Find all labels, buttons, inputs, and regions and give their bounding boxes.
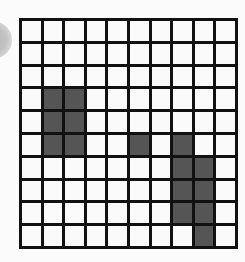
grid-cell-empty [44,226,63,246]
grid-cell-filled [173,158,192,178]
grid-cell-empty [173,226,192,246]
grid-cell-empty [65,203,84,223]
pixel-grid [19,18,238,249]
grid-cell-empty [152,203,171,223]
grid-cell-empty [65,226,84,246]
grid-cell-empty [216,112,235,132]
grid-cell-empty [108,112,127,132]
grid-cell-empty [65,158,84,178]
grid-cell-empty [22,181,41,201]
grid-cell-empty [216,21,235,41]
grid-cell-empty [152,135,171,155]
grid-cell-empty [216,89,235,109]
grid-cell-filled [195,226,214,246]
grid-cell-empty [130,226,149,246]
grid-cell-empty [65,67,84,87]
grid-cell-empty [216,181,235,201]
grid-cell-empty [173,21,192,41]
grid-cell-empty [152,158,171,178]
grid-cell-empty [44,181,63,201]
grid-cell-filled [44,112,63,132]
grid-cell-empty [87,44,106,64]
grid-cell-empty [22,89,41,109]
grid-cell-empty [130,158,149,178]
grid-cell-empty [173,44,192,64]
grid-cell-filled [65,89,84,109]
grid-cell-empty [87,135,106,155]
grid-cell-empty [108,135,127,155]
grid-cell-empty [216,158,235,178]
grid-cell-empty [22,112,41,132]
grid-cell-empty [108,203,127,223]
grid-cell-empty [130,44,149,64]
grid-cell-empty [22,44,41,64]
grid-cell-empty [108,21,127,41]
grid-cell-empty [22,203,41,223]
grid-cell-empty [87,158,106,178]
grid-cell-empty [173,67,192,87]
grid-cell-empty [130,89,149,109]
grid-cell-empty [87,21,106,41]
grid-cell-empty [173,112,192,132]
grid-cell-filled [195,158,214,178]
grid-cell-empty [152,89,171,109]
grid-cell-empty [44,21,63,41]
grid-cell-empty [130,112,149,132]
grid-cell-filled [173,181,192,201]
grid-cell-empty [22,226,41,246]
grid-cell-empty [195,89,214,109]
grid-cell-empty [195,112,214,132]
grid-cell-empty [22,67,41,87]
grid-cell-empty [44,203,63,223]
grid-cell-empty [44,67,63,87]
grid-cell-empty [108,226,127,246]
grid-cell-empty [152,67,171,87]
grid-cell-empty [44,158,63,178]
grid-cell-empty [130,203,149,223]
grid-cell-empty [87,226,106,246]
grid-cell-empty [65,21,84,41]
grid-cell-empty [130,21,149,41]
grid-cell-empty [216,203,235,223]
grid-cell-empty [195,21,214,41]
grid-cell-filled [65,135,84,155]
grid-cell-empty [22,21,41,41]
grid-cell-empty [216,135,235,155]
grid-cell-filled [173,203,192,223]
grid-cell-empty [22,158,41,178]
grid-cell-empty [44,44,63,64]
grid-cell-empty [216,67,235,87]
grid-cell-empty [87,203,106,223]
grid-cell-empty [152,112,171,132]
grid-cell-empty [87,67,106,87]
grid-cell-empty [152,181,171,201]
grid-cell-empty [152,226,171,246]
grid-cell-filled [44,89,63,109]
grid-cell-filled [65,112,84,132]
grid-cell-empty [195,67,214,87]
grid-cell-filled [173,135,192,155]
grid-cell-empty [152,44,171,64]
grid-cell-empty [108,67,127,87]
grid-cell-empty [130,181,149,201]
grid-cell-filled [195,181,214,201]
grid-cell-empty [173,89,192,109]
grid-cell-empty [108,89,127,109]
grid-cell-empty [65,181,84,201]
grid-cell-empty [195,135,214,155]
grid-cell-empty [108,158,127,178]
grid-cell-empty [130,67,149,87]
grid-cell-filled [195,203,214,223]
grid-cell-empty [152,21,171,41]
partial-circle-marker [0,22,12,58]
grid-cell-empty [216,226,235,246]
grid-cell-empty [65,44,84,64]
grid-cell-empty [108,181,127,201]
grid-cell-empty [216,44,235,64]
grid-cell-filled [44,135,63,155]
grid-cell-empty [195,44,214,64]
grid-cell-empty [22,135,41,155]
grid-cell-empty [87,181,106,201]
grid-cell-empty [87,89,106,109]
grid-cell-empty [87,112,106,132]
